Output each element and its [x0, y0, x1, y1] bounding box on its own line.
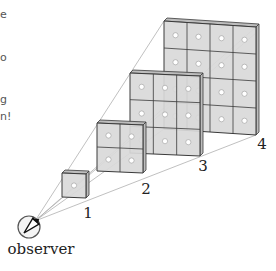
observer-label: observer	[8, 240, 76, 258]
cell-dot	[219, 90, 224, 95]
cell-dot	[173, 60, 178, 65]
cell-dot	[186, 140, 191, 145]
cell-dot	[139, 84, 144, 89]
cell-dot	[219, 63, 224, 68]
cell-dot	[129, 134, 134, 139]
cell-dot	[106, 157, 111, 162]
cell-dot	[71, 183, 76, 188]
cell-dot	[106, 133, 111, 138]
cell-dot	[139, 111, 144, 116]
cell-dot	[162, 139, 167, 144]
distance-label-1: 1	[83, 204, 93, 222]
distance-label-2: 2	[141, 180, 151, 198]
cell-dot	[186, 113, 191, 118]
observer: observer	[8, 216, 76, 258]
grid-square-1	[62, 170, 89, 198]
grid-square-2	[97, 120, 146, 173]
cell-dot	[242, 118, 247, 123]
cell-dot	[162, 85, 167, 90]
cell-dot	[129, 158, 134, 163]
cell-dot	[162, 112, 167, 117]
cell-dot	[242, 64, 247, 69]
cell-dot	[219, 117, 224, 122]
cell-dot	[196, 61, 201, 66]
cell-dot	[219, 36, 224, 41]
cell-dot	[173, 33, 178, 38]
perspective-diagram: 1234 observer	[0, 0, 276, 271]
cell-dot	[196, 34, 201, 39]
cell-dot	[242, 37, 247, 42]
distance-label-3: 3	[198, 157, 208, 175]
cell-dot	[242, 91, 247, 96]
cell-dot	[186, 86, 191, 91]
distance-label-4: 4	[257, 135, 267, 153]
